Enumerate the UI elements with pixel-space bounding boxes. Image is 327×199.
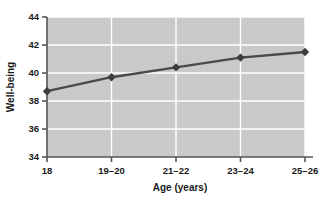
y-axis-tick-labels: 343638404244 <box>28 11 39 162</box>
y-tick-label: 34 <box>28 151 39 162</box>
x-axis-tick-labels: 1819–2021–2223–2425–26 <box>42 165 319 176</box>
y-tick-label: 42 <box>28 39 39 50</box>
chart-canvas: 343638404244 1819–2021–2223–2425–26 Age … <box>0 0 327 199</box>
x-tick-label: 21–22 <box>163 165 189 176</box>
x-axis-title: Age (years) <box>153 182 207 193</box>
y-tick-label: 44 <box>28 11 39 22</box>
y-tick-label: 38 <box>28 95 39 106</box>
x-tick-label: 25–26 <box>292 165 318 176</box>
x-tick-label: 23–24 <box>227 165 254 176</box>
y-tick-label: 40 <box>28 67 39 78</box>
y-axis-title: Well-being <box>5 62 16 112</box>
x-tick-label: 18 <box>42 165 53 176</box>
y-tick-label: 36 <box>28 123 39 134</box>
x-tick-label: 19–20 <box>98 165 124 176</box>
wellbeing-line-chart: 343638404244 1819–2021–2223–2425–26 Age … <box>0 0 327 199</box>
